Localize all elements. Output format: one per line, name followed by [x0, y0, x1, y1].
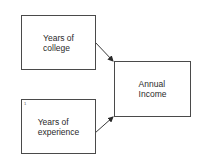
node-label: Years of experience	[38, 117, 80, 137]
node-mark: 1	[24, 101, 26, 106]
node-annual-income: Annual Income	[114, 61, 191, 117]
node-years-of-experience: 1 Years of experience	[21, 99, 96, 154]
arrow-college-to-income	[95, 42, 113, 61]
node-label: Years of college	[43, 33, 74, 53]
arrow-experience-to-income	[95, 117, 113, 133]
node-label: Annual Income	[139, 79, 167, 99]
node-years-of-college: Years of college	[21, 15, 96, 70]
